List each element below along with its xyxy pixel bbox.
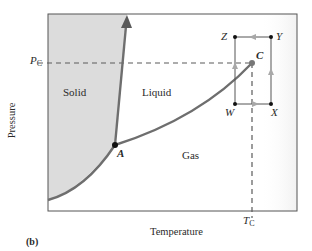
critical-temperature-label: TC — [243, 214, 254, 228]
point-z-marker — [233, 35, 237, 39]
pc-main: P — [30, 54, 37, 66]
phase-diagram-graphic — [0, 0, 312, 251]
point-y-label: Y — [276, 30, 282, 42]
critical-point-label: C — [256, 49, 263, 61]
panel-label: (b) — [26, 236, 38, 247]
gas-region-label: Gas — [182, 149, 199, 161]
critical-point-marker — [249, 60, 255, 66]
pc-sub: C — [37, 59, 42, 68]
point-y-marker — [269, 35, 273, 39]
liquid-region-label: Liquid — [142, 86, 171, 98]
critical-pressure-label: PC — [30, 54, 42, 68]
y-axis-title: Pressure — [6, 103, 17, 139]
tc-sub: C — [249, 219, 254, 228]
x-axis-title: Temperature — [150, 226, 203, 237]
solid-region-label: Solid — [63, 86, 86, 98]
phase-diagram: PC Solid Liquid Gas A C Z Y W X TC Tempe… — [0, 0, 312, 251]
point-w-label: W — [225, 106, 234, 118]
point-z-label: Z — [221, 30, 227, 42]
triple-point-label: A — [117, 147, 124, 159]
point-x-label: X — [271, 106, 278, 118]
